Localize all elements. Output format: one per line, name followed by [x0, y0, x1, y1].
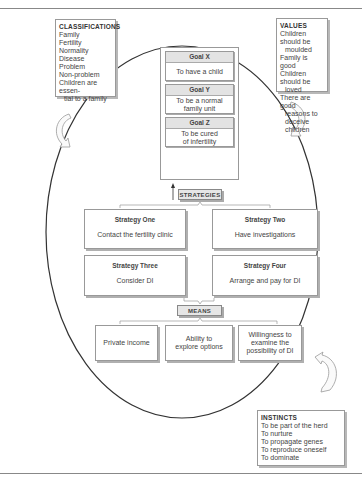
value-item: Children should be — [280, 30, 324, 46]
means-text: explore options — [175, 343, 222, 351]
value-item: reasons to deceive — [280, 110, 324, 126]
means-top-bracket — [184, 298, 214, 304]
instincts-box: INSTINCTS To be part of the herd To nurt… — [257, 410, 345, 466]
goal-text: To have a child — [176, 68, 223, 76]
curved-arrow-left-icon — [56, 114, 71, 147]
strategies-bracket — [120, 202, 270, 208]
classifications-title: CLASSIFICATIONS — [59, 23, 112, 31]
instinct-item: To dominate — [261, 454, 341, 462]
classification-item: Problem — [59, 63, 112, 71]
means-text: Willingness to — [248, 331, 291, 339]
goal-z-box: Goal Z To be cured of infertility — [165, 117, 234, 147]
classification-item: Children are essen- — [59, 79, 112, 95]
classification-item: Non-problem — [59, 71, 112, 79]
means-text: Ability to — [186, 335, 212, 343]
strategy-desc: Contact the fertility clinic — [85, 231, 185, 239]
strategy-title: Strategy Four — [213, 262, 317, 270]
strategies-label: STRATEGIES — [178, 189, 222, 200]
means-text: examine the — [251, 339, 289, 347]
goals-container: Goal X To have a child Goal Y To be a no… — [160, 47, 239, 180]
goal-text: To be a normal — [176, 97, 222, 105]
goal-y-box: Goal Y To be a normal family unit — [165, 84, 234, 114]
strategy-title: Strategy Three — [85, 262, 185, 270]
strategy-one-card: Strategy One Contact the fertility clini… — [84, 209, 186, 249]
means-card-private-income: Private income — [95, 325, 158, 361]
means-text: Private income — [103, 339, 149, 347]
goal-text: of infertility — [183, 138, 216, 146]
goal-title: Goal Y — [166, 85, 233, 96]
classifications-box: CLASSIFICATIONS Family Fertility Normali… — [55, 19, 116, 97]
means-card-willingness: Willingness to examine the possibility o… — [238, 325, 302, 361]
goal-x-box: Goal X To have a child — [165, 51, 234, 81]
means-bracket — [120, 318, 277, 324]
classification-item: Family — [59, 31, 112, 39]
value-item: Children should be — [280, 70, 324, 86]
instinct-item: To reproduce oneself — [261, 446, 341, 454]
strategy-title: Strategy Two — [213, 216, 317, 224]
curved-arrow-instincts-icon — [315, 352, 336, 392]
classification-item: tial to a family — [59, 95, 112, 103]
strategy-four-card: Strategy Four Arrange and pay for DI — [212, 255, 318, 296]
goal-text: To be cured — [181, 130, 218, 138]
strategy-desc: Arrange and pay for DI — [213, 277, 317, 285]
values-title: VALUES — [280, 22, 324, 30]
values-box: VALUES Children should be moulded Family… — [276, 18, 328, 92]
means-text: possibility of DI — [246, 347, 293, 355]
means-label: MEANS — [177, 305, 222, 316]
strategy-two-card: Strategy Two Have investigations — [212, 209, 318, 249]
goal-title: Goal Z — [166, 118, 233, 129]
instinct-item: To nurture — [261, 430, 341, 438]
classification-item: Fertility — [59, 39, 112, 47]
goal-title: Goal X — [166, 52, 233, 63]
strategy-title: Strategy One — [85, 216, 185, 224]
strategy-three-card: Strategy Three Consider DI — [84, 255, 186, 296]
instinct-item: To be part of the herd — [261, 422, 341, 430]
strategy-desc: Have investigations — [213, 231, 317, 239]
strategy-desc: Consider DI — [85, 277, 185, 285]
instinct-item: To propagate genes — [261, 438, 341, 446]
arrow-up-icon — [171, 183, 175, 188]
classification-item: Normality — [59, 47, 112, 55]
value-item: children — [280, 126, 324, 134]
means-card-ability: Ability to explore options — [165, 325, 233, 361]
value-item: loved — [280, 86, 324, 94]
value-item: There are good — [280, 94, 324, 110]
value-item: Family is good — [280, 54, 324, 70]
classification-item: Disease — [59, 55, 112, 63]
goal-text: family unit — [184, 105, 216, 113]
instincts-title: INSTINCTS — [261, 414, 341, 422]
value-item: moulded — [280, 46, 324, 54]
